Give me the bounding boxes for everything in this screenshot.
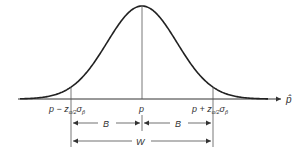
center-label: p: [138, 104, 144, 114]
normal-curve: [20, 6, 268, 99]
upper-bound-label: p + zα/2σp̂: [191, 104, 228, 115]
b-right-label: B: [175, 119, 181, 129]
lower-bound-label: p − zα/2σp̂: [48, 104, 85, 115]
confidence-interval-diagram: p̂ p − zα/2σp̂ p p + zα/2σp̂ B B W: [0, 0, 307, 156]
b-left-label: B: [103, 119, 109, 129]
axis-label: p̂: [285, 94, 292, 105]
w-label: W: [136, 137, 146, 147]
